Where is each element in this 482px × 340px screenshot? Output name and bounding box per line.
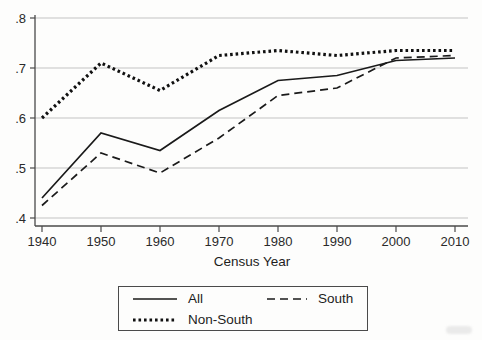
svg-text:2000: 2000 — [382, 234, 411, 249]
svg-text:.7: .7 — [15, 61, 26, 76]
legend-label-all: All — [188, 291, 203, 306]
svg-text:1960: 1960 — [146, 234, 175, 249]
legend: All South Non-South — [118, 286, 368, 331]
non-south-line-swatch-icon — [133, 315, 177, 325]
tick-labels-group: .4.5.6.7.8194019501960197019801990200020… — [15, 11, 469, 250]
legend-label-non-south: Non-South — [188, 312, 253, 327]
legend-item-south: South — [255, 291, 361, 306]
line-chart-figure: .4.5.6.7.8194019501960197019801990200020… — [0, 0, 482, 340]
svg-text:1990: 1990 — [323, 234, 352, 249]
legend-item-all: All — [133, 291, 255, 306]
svg-text:1980: 1980 — [264, 234, 293, 249]
svg-text:.5: .5 — [15, 161, 26, 176]
svg-text:1940: 1940 — [28, 234, 57, 249]
south-line-swatch-icon — [267, 294, 307, 304]
data-series-group — [42, 51, 455, 206]
all-line-swatch-icon — [133, 294, 177, 304]
svg-text:.8: .8 — [15, 11, 26, 26]
svg-text:1970: 1970 — [205, 234, 234, 249]
scan-smudge-artifact — [446, 326, 472, 334]
svg-text:1950: 1950 — [87, 234, 116, 249]
axes-group — [30, 15, 468, 232]
svg-text:.6: .6 — [15, 111, 26, 126]
legend-label-south: South — [318, 291, 353, 306]
svg-text:2010: 2010 — [441, 234, 470, 249]
gridlines-group — [35, 18, 468, 218]
legend-item-non-south: Non-South — [133, 312, 255, 327]
svg-text:.4: .4 — [15, 211, 26, 226]
x-axis-title: Census Year — [214, 254, 291, 269]
